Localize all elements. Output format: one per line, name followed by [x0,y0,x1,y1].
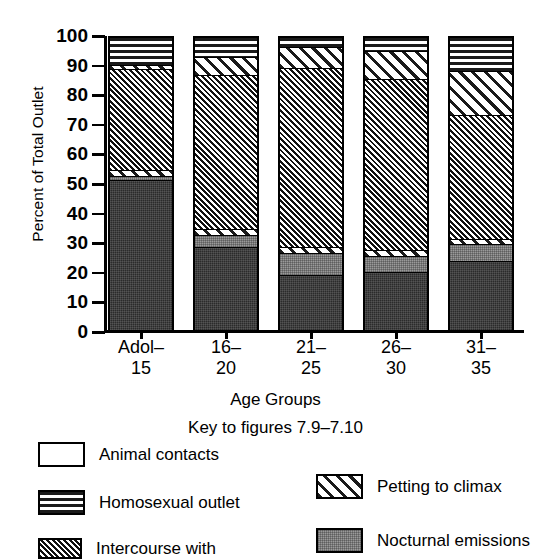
bar-segment-nocturnal [280,253,342,275]
bar-segment-nocturnal [195,235,257,247]
bar-16-20 [193,36,259,332]
bar-segment-masturbation [195,247,257,332]
bar-segment-petting [110,170,172,176]
y-tick-label-50: 50 [67,174,88,193]
y-tick-label-10: 10 [67,292,88,311]
y-tick-10 [92,301,105,304]
legend-label-intercourse: Intercourse with [96,539,216,559]
bar-segment-petting [195,57,257,75]
y-tick-label-70: 70 [67,115,88,134]
bar-segment-petting [450,239,512,243]
y-tick-label-90: 90 [67,56,88,75]
bar-segment-nocturnal [450,244,512,262]
bar-26-30 [363,36,429,332]
bar-segment-intercourse [195,75,257,229]
bar-segment-masturbation [280,275,342,332]
bar-segment-intercourse [280,68,342,247]
legend-swatch-homosexual [38,490,85,515]
y-tick-0 [92,331,105,334]
bar-segment-petting [195,229,257,235]
bar-segment-homosexual [365,38,427,51]
legend-item-intercourse: Intercourse with [38,538,216,559]
y-tick-70 [92,124,105,127]
bar-segment-nocturnal [110,176,172,180]
y-tick-label-40: 40 [67,204,88,223]
y-tick-100 [92,35,105,38]
bar-segment-petting [365,51,427,79]
plot-area: Percent of Total Outlet 1009080706050403… [0,0,551,355]
legend-swatch-animal [38,442,85,467]
bar-segment-homosexual [450,38,512,71]
bar-segment-petting [365,250,427,256]
bar-31-35 [448,36,514,332]
bar-segment-petting [280,47,342,68]
y-tick-80 [92,94,105,97]
bar-segment-homosexual [110,38,172,65]
bar-segment-petting [280,247,342,253]
legend-label-petting: Petting to climax [377,477,502,497]
bar-segment-homosexual [280,38,342,47]
y-tick-90 [92,65,105,68]
bar-segment-intercourse [110,69,172,170]
legend-label-animal: Animal contacts [99,445,219,465]
y-tick-label-80: 80 [67,85,88,104]
y-tick-label-30: 30 [67,233,88,252]
y-tick-40 [92,213,105,216]
bar-segment-masturbation [365,272,427,332]
legend-item-nocturnal: Nocturnal emissions [316,528,530,553]
y-tick-30 [92,242,105,245]
legend-label-nocturnal: Nocturnal emissions [377,531,530,551]
legend-swatch-intercourse [38,538,82,559]
y-tick-20 [92,272,105,275]
bar-segment-homosexual [195,38,257,57]
y-tick-60 [92,153,105,156]
legend-item-animal: Animal contacts [38,442,219,467]
bar-segment-petting [450,71,512,115]
key-title: Key to figures 7.9–7.10 [0,418,551,438]
bar-21-25 [278,36,344,332]
y-tick-label-20: 20 [67,263,88,282]
bar-segment-petting [110,65,172,69]
bar-segment-masturbation [110,180,172,332]
bar-segment-masturbation [450,261,512,332]
bar-segment-intercourse [450,115,512,239]
x-axis-title: Age Groups [0,390,551,410]
x-label-31-35: 31– 35 [426,337,536,379]
bar-segment-intercourse [365,79,427,249]
legend-item-homosexual: Homosexual outlet [38,490,240,515]
bar-segment-nocturnal [365,256,427,272]
bar-Adol-15 [108,36,174,332]
y-tick-50 [92,183,105,186]
y-tick-label-60: 60 [67,144,88,163]
y-axis-title: Percent of Total Outlet [29,34,47,294]
legend-swatch-nocturnal [316,528,363,553]
y-tick-label-100: 100 [56,26,88,45]
legend-swatch-petting [316,474,363,499]
legend: Animal contactsHomosexual outletIntercou… [0,440,551,547]
legend-item-petting: Petting to climax [316,474,502,499]
legend-label-homosexual: Homosexual outlet [99,493,240,513]
